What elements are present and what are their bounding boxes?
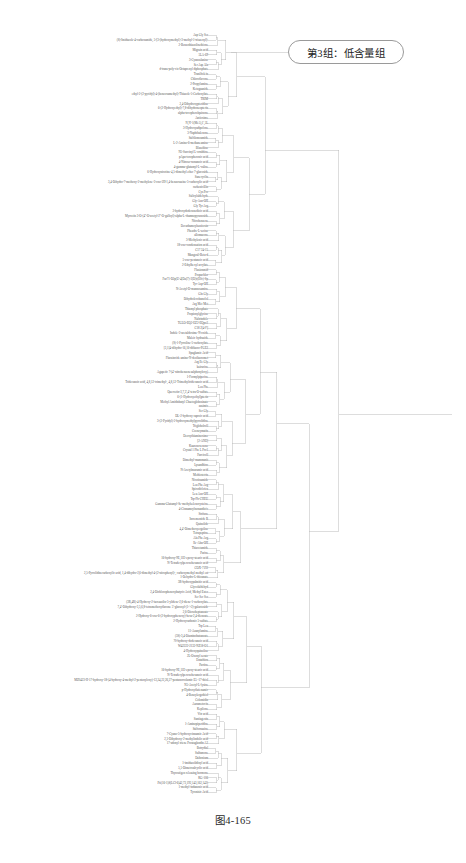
group-3-callout-label: 第3组：低含量组 [307, 45, 385, 60]
dendrogram-tree [0, 0, 466, 863]
figure-root: Asp Gly Ser(S)-Imidazole-4-carboxamide, … [0, 0, 466, 863]
figure-caption: 图4-165 [0, 812, 466, 827]
group-3-callout-box[interactable]: 第3组：低含量组 [288, 40, 404, 64]
